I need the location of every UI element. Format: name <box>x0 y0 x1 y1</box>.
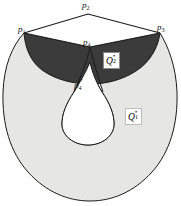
region-label-q2: Q•2 <box>103 52 120 69</box>
geometric-figure: p1 p2 p3 p4 p4′ Q•2 Q•1 <box>0 0 181 206</box>
vertex-label-p4: p4 <box>83 38 91 47</box>
vertex-label-p4-prime: p4′ <box>74 81 83 90</box>
region-label-q1: Q•1 <box>125 108 142 125</box>
figure-canvas <box>0 0 181 206</box>
vertex-label-p1: p1 <box>18 25 26 34</box>
vertex-label-p2: p2 <box>82 1 90 10</box>
vertex-label-p3: p3 <box>157 23 165 32</box>
